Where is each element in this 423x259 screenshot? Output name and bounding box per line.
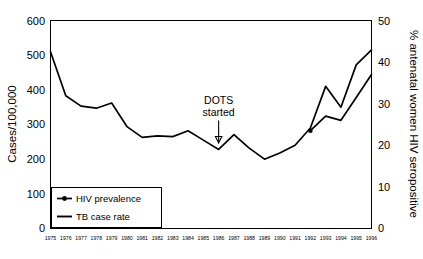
x-axis-tick-1986: 1986	[213, 235, 225, 241]
left-axis-ticks: 600 500 400 300 200 100 0	[27, 15, 45, 235]
x-axis-tick-1989: 1989	[259, 235, 271, 241]
x-axis-tick-1995: 1995	[350, 235, 362, 241]
x-axis-tick-1979: 1979	[106, 235, 118, 241]
right-axis-tick-50: 50	[378, 15, 390, 27]
left-axis-tick-300: 300	[27, 118, 45, 130]
right-axis-tick-40: 40	[378, 56, 390, 68]
x-axis-tick-1983: 1983	[167, 235, 179, 241]
x-axis-ticks: 1975197619771978197919801981198219831984…	[45, 235, 378, 241]
legend: HIV prevalence TB case rate	[52, 188, 162, 228]
left-axis-tick-200: 200	[27, 153, 45, 165]
x-axis-tick-1975: 1975	[45, 235, 57, 241]
x-axis-tick-1976: 1976	[60, 235, 72, 241]
x-axis-tick-1990: 1990	[274, 235, 286, 241]
left-axis-tick-100: 100	[27, 188, 45, 200]
x-axis-tick-1993: 1993	[320, 235, 332, 241]
left-axis-tick-600: 600	[27, 15, 45, 27]
x-axis-tick-1980: 1980	[121, 235, 133, 241]
x-axis-tick-1981: 1981	[136, 235, 148, 241]
x-axis-tick-1978: 1978	[91, 235, 103, 241]
chart-container: 600 500 400 300 200 100 0 50 40 30 20 10…	[0, 0, 423, 259]
left-axis-tick-400: 400	[27, 84, 45, 96]
annotation-line-1: DOTS	[204, 94, 233, 106]
x-axis-tick-1994: 1994	[335, 235, 347, 241]
legend-label-tb-case-rate: TB case rate	[76, 211, 130, 222]
right-axis-tick-20: 20	[378, 139, 390, 151]
left-axis-title: Cases/100,000	[6, 85, 18, 162]
x-axis-tick-1996: 1996	[366, 235, 378, 241]
right-axis-tick-0: 0	[378, 222, 384, 234]
x-axis-tick-1988: 1988	[243, 235, 255, 241]
x-axis-tick-1987: 1987	[228, 235, 240, 241]
data-point-hiv-1992	[308, 128, 313, 133]
legend-marker-point-hiv	[62, 196, 67, 201]
right-axis-ticks: 50 40 30 20 10 0	[378, 15, 390, 235]
x-axis-tick-1985: 1985	[198, 235, 210, 241]
x-axis-tick-1982: 1982	[152, 235, 164, 241]
right-axis-tick-10: 10	[378, 181, 390, 193]
series-markers-hiv-prevalence	[308, 128, 313, 133]
legend-label-hiv-prevalence: HIV prevalence	[76, 193, 141, 204]
x-axis-tick-1977: 1977	[75, 235, 87, 241]
x-axis-tick-1992: 1992	[305, 235, 317, 241]
right-axis-tick-30: 30	[378, 98, 390, 110]
right-axis-title: % antenatal women HIV seropositive	[408, 30, 420, 218]
chart-svg: 600 500 400 300 200 100 0 50 40 30 20 10…	[0, 0, 423, 259]
x-axis-tick-1991: 1991	[289, 235, 301, 241]
left-axis-tick-0: 0	[39, 222, 45, 234]
left-axis-tick-500: 500	[27, 49, 45, 61]
x-axis-tick-1984: 1984	[182, 235, 194, 241]
annotation-dots-started: DOTS started	[203, 94, 235, 143]
annotation-line-2: started	[203, 106, 235, 118]
